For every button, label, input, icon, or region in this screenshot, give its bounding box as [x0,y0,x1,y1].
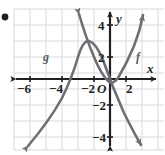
graph-canvas [0,0,165,155]
y-axis-label: y [116,12,122,25]
x-axis-label: x [147,62,154,75]
curve-label-f: f [136,51,140,63]
x-tick-label-neg6: −6 [17,82,31,95]
x-tick-label-pos2: 2 [126,82,133,95]
x-tick-label-neg4: −4 [49,82,63,95]
y-tick-label-neg4: −4 [92,131,106,144]
graph-figure: −6 −4 −2 2 4 2 −2 −4 O x y g f [0,0,165,155]
y-tick-label-pos2: 2 [98,51,105,64]
bullet-marker-icon [2,14,9,21]
origin-label: O [97,82,106,95]
x-tick-label-neg2: −2 [81,82,95,95]
y-tick-label-neg2: −2 [92,99,106,112]
y-tick-label-pos4: 4 [98,19,105,32]
curve-label-g: g [43,51,49,63]
